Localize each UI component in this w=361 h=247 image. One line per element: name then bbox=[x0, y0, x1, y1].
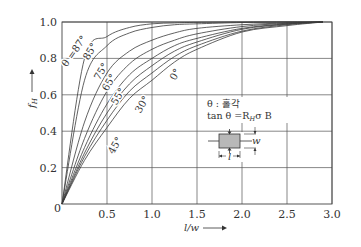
x-axis-arrow-icon bbox=[222, 226, 227, 231]
x-tick-label: 2.0 bbox=[233, 208, 251, 221]
x-axis-label: l/w bbox=[184, 222, 227, 233]
x-tick-label: 0.5 bbox=[98, 208, 116, 221]
legend-theta-definition: θ : 홀각 bbox=[207, 98, 240, 109]
y-axis-arrow-icon bbox=[30, 69, 35, 74]
curve-label: 0° bbox=[167, 67, 182, 82]
legend-box: θ : 홀각 tan θ =RHσ B bbox=[205, 97, 295, 123]
y-tick-label: 0.2 bbox=[40, 162, 58, 175]
x-tick-label: 1.0 bbox=[143, 208, 161, 221]
y-tick-label: 0.8 bbox=[40, 52, 58, 65]
svg-text:45°: 45° bbox=[106, 135, 124, 156]
x-axis-title: l/w bbox=[184, 222, 200, 233]
y-tick-label: 1.0 bbox=[40, 16, 58, 29]
x-tick-label: 1.5 bbox=[188, 208, 206, 221]
y-tick-label: 0.4 bbox=[40, 125, 58, 138]
x-tick-label: 2.5 bbox=[278, 208, 296, 221]
hall-factor-chart: θ =87°85°75°65°55°45°30°0° 0.51.01.52.02… bbox=[0, 0, 361, 247]
x-tick-label: 3.0 bbox=[323, 208, 341, 221]
origin-label: 0 bbox=[54, 202, 61, 215]
sample-rectangle bbox=[219, 134, 240, 148]
y-tick-labels: 0.20.40.60.81.0 bbox=[40, 16, 58, 175]
y-tick-label: 0.6 bbox=[40, 89, 58, 102]
sample-diagram: w l bbox=[208, 127, 276, 162]
inset-width-label: w bbox=[252, 135, 261, 146]
curve-label: 30° bbox=[133, 94, 151, 115]
y-axis-label: fH bbox=[26, 69, 39, 109]
svg-text:30°: 30° bbox=[133, 94, 151, 115]
inset-length-label: l bbox=[228, 151, 231, 162]
svg-text:0°: 0° bbox=[167, 67, 182, 82]
curve-label: 45° bbox=[106, 135, 124, 156]
x-tick-labels: 0.51.01.52.02.53.0 bbox=[98, 208, 341, 221]
y-axis-title: fH bbox=[26, 97, 39, 109]
